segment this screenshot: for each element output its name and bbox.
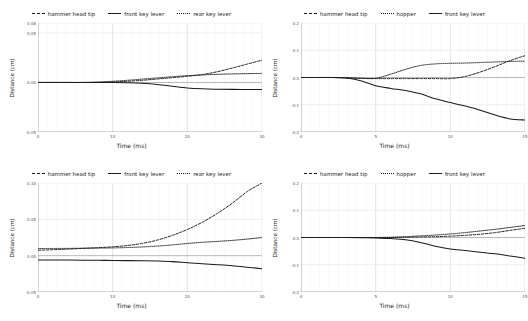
legend-label: rear key lever — [193, 171, 231, 177]
plot-area: -0.050.000.050.100102030 — [38, 183, 262, 292]
panel-bottom-right: hammer head tip hopper front key lever D… — [263, 160, 526, 321]
line-style-dashed-icon — [304, 11, 317, 16]
line-style-solid-icon — [429, 11, 442, 16]
y-tick-label: 0.0 — [293, 235, 299, 240]
panel-bottom-left: hammer head tip front key lever rear key… — [0, 160, 263, 321]
y-axis-label: Distance (cm) — [6, 183, 18, 292]
y-tick-label: -0.05 — [26, 290, 36, 295]
y-tick-label: 0.06 — [27, 21, 36, 26]
x-tick-label: 20 — [185, 134, 190, 139]
panel-top-left: hammer head tip front key lever rear key… — [0, 0, 263, 160]
plot-area: -0.2-0.10.00.10.2051015 — [301, 183, 525, 292]
legend-label: hopper — [397, 11, 416, 17]
line-style-solid-icon — [108, 171, 121, 176]
legend-item: hopper — [381, 11, 416, 17]
y-tick-label: -0.1 — [291, 102, 299, 107]
x-tick-label: 5 — [374, 294, 377, 299]
legend-bottom-right: hammer head tip hopper front key lever — [263, 167, 526, 180]
x-tick-label: 5 — [374, 134, 377, 139]
x-tick-label: 10 — [448, 294, 453, 299]
legend-bottom-left: hammer head tip front key lever rear key… — [0, 167, 263, 180]
legend-label: front key lever — [445, 11, 485, 17]
legend-item: hammer head tip — [304, 171, 367, 177]
legend-label: hopper — [397, 171, 416, 177]
x-tick-label: 0 — [300, 134, 303, 139]
y-axis-label: Distance (cm) — [6, 23, 18, 132]
legend-item: hopper — [381, 171, 416, 177]
line-style-dashed-icon — [32, 171, 45, 176]
legend-item: hammer head tip — [32, 11, 95, 17]
x-tick-label: 0 — [37, 134, 40, 139]
line-style-dotted-icon — [177, 11, 190, 16]
x-axis-label: Time (ms) — [263, 142, 526, 149]
line-style-dotted-icon — [381, 171, 394, 176]
x-tick-label: 0 — [37, 294, 40, 299]
legend-label: hammer head tip — [320, 11, 367, 17]
legend-label: hammer head tip — [320, 171, 367, 177]
plot-area: -0.050.000.050.060102030 — [38, 23, 262, 132]
line-style-solid-icon — [429, 171, 442, 176]
x-tick-label: 0 — [300, 294, 303, 299]
y-tick-label: 0.05 — [27, 217, 36, 222]
line-style-dotted-icon — [177, 171, 190, 176]
legend-label: front key lever — [124, 11, 164, 17]
plot-area: -0.2-0.10.00.10.2051015 — [301, 23, 525, 132]
legend-item: front key lever — [108, 11, 164, 17]
x-axis-label: Time (ms) — [0, 302, 263, 309]
x-tick-label: 10 — [110, 134, 115, 139]
legend-label: hammer head tip — [48, 11, 95, 17]
legend-label: front key lever — [124, 171, 164, 177]
y-tick-label: 0.1 — [293, 48, 299, 53]
legend-label: front key lever — [445, 171, 485, 177]
y-tick-label: 0.2 — [293, 181, 299, 186]
y-tick-label: -0.2 — [291, 130, 299, 135]
legend-item: rear key lever — [177, 11, 231, 17]
x-tick-label: 20 — [185, 294, 190, 299]
line-style-dashed-icon — [32, 11, 45, 16]
legend-label: hammer head tip — [48, 171, 95, 177]
panel-top-right: hammer head tip hopper front key lever D… — [263, 0, 526, 160]
legend-item: hammer head tip — [32, 171, 95, 177]
legend-label: rear key lever — [193, 11, 231, 17]
legend-item: rear key lever — [177, 171, 231, 177]
y-tick-label: 0.00 — [27, 80, 36, 85]
y-tick-label: 0.00 — [27, 253, 36, 258]
x-axis-label: Time (ms) — [0, 142, 263, 149]
y-axis-label: Distance (cm) — [269, 183, 281, 292]
y-tick-label: 0.1 — [293, 208, 299, 213]
line-style-dotted-icon — [381, 11, 394, 16]
y-axis-label: Distance (cm) — [269, 23, 281, 132]
y-tick-label: -0.05 — [26, 130, 36, 135]
legend-item: hammer head tip — [304, 11, 367, 17]
legend-item: front key lever — [429, 11, 485, 17]
y-tick-label: 0.2 — [293, 21, 299, 26]
x-tick-label: 10 — [448, 134, 453, 139]
x-tick-label: 15 — [522, 294, 527, 299]
legend-item: front key lever — [429, 171, 485, 177]
legend-item: front key lever — [108, 171, 164, 177]
y-tick-label: -0.2 — [291, 290, 299, 295]
line-style-dashed-icon — [304, 171, 317, 176]
x-tick-label: 10 — [110, 294, 115, 299]
y-tick-label: 0.05 — [27, 30, 36, 35]
y-tick-label: -0.1 — [291, 262, 299, 267]
legend-top-right: hammer head tip hopper front key lever — [263, 7, 526, 20]
y-tick-label: 0.0 — [293, 75, 299, 80]
y-tick-label: 0.10 — [27, 181, 36, 186]
x-tick-label: 15 — [522, 134, 527, 139]
legend-top-left: hammer head tip front key lever rear key… — [0, 7, 263, 20]
line-style-solid-icon — [108, 11, 121, 16]
x-axis-label: Time (ms) — [263, 302, 526, 309]
